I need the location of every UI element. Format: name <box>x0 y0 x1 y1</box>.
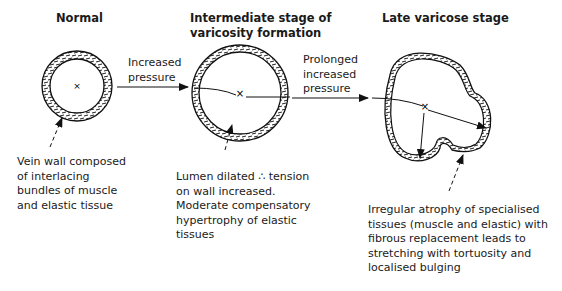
center-marker-1: × <box>73 81 81 91</box>
leader-arrow-late <box>449 155 463 191</box>
transition-label-2: Prolonged increased pressure <box>303 53 358 97</box>
stage-title-normal: Normal <box>56 11 103 26</box>
stage-title-late: Late varicose stage <box>382 11 509 26</box>
transition-label-1: Increased pressure <box>128 56 182 85</box>
normal-vein: × <box>42 51 112 147</box>
center-marker-2: × <box>236 88 244 99</box>
late-varicose-vein: × <box>372 53 491 191</box>
intermediate-vein: × <box>192 45 290 150</box>
stage-description-late: Irregular atrophy of specialised tissues… <box>368 203 548 276</box>
stage-title-intermediate: Intermediate stage of varicosity formati… <box>190 11 332 41</box>
stage-description-intermediate: Lumen dilated ∴ tension on wall increase… <box>176 170 311 243</box>
leader-arrow-normal <box>50 118 62 147</box>
stage-description-normal: Vein wall composed of interlacing bundle… <box>17 155 126 213</box>
